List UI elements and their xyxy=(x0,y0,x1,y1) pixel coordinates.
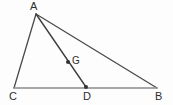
segment-ac xyxy=(14,14,36,88)
vertex-label-d: D xyxy=(83,91,91,102)
segment-ad-cevian xyxy=(36,14,86,87)
vertex-label-c: C xyxy=(9,91,17,102)
segment-ab xyxy=(36,14,157,88)
vertex-label-b: B xyxy=(155,91,162,102)
point-marker-d xyxy=(84,85,88,89)
point-label-g: G xyxy=(72,56,80,66)
geometry-figure: A B C D G xyxy=(0,0,173,105)
vertex-label-a: A xyxy=(30,1,37,12)
point-marker-g xyxy=(66,60,70,64)
